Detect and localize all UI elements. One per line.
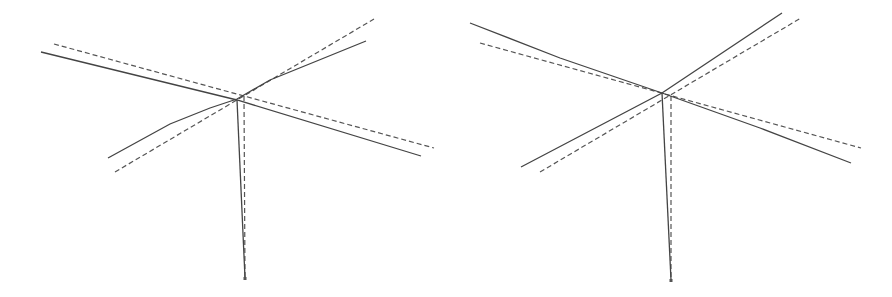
base-node [244,277,247,280]
right-panel [470,13,861,282]
diagram-canvas [0,0,892,297]
solid-long-arm [470,23,851,163]
solid-short-arm [108,41,366,158]
solid-post [237,100,245,278]
left-panel [41,19,434,280]
solid-post [662,93,671,280]
dashed-short-arm [115,19,374,172]
solid-long-arm [41,52,421,156]
base-node [670,279,673,282]
